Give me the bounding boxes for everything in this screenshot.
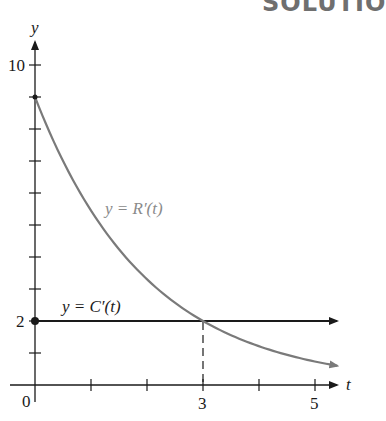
point-c-intercept [31, 317, 39, 325]
r-prime-curve [35, 97, 337, 366]
point-r-intercept [33, 95, 38, 100]
r-prime-label: y = R′(t) [103, 199, 163, 218]
c-prime-label: y = C′(t) [60, 297, 121, 316]
y-axis-label: y [29, 18, 39, 37]
origin-label: 0 [22, 392, 31, 411]
y-tick-label-10: 10 [8, 56, 25, 75]
x-axis-label: t [346, 375, 352, 394]
y-tick-label-2: 2 [16, 312, 25, 331]
x-tick-label-3: 3 [198, 394, 207, 413]
x-tick-label-5: 5 [310, 394, 319, 413]
